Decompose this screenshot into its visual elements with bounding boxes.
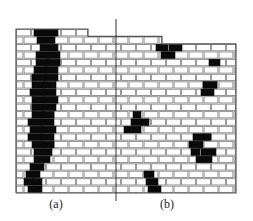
brick <box>92 179 106 185</box>
masonry-wall-diagram <box>0 0 253 221</box>
brick <box>204 67 218 73</box>
brick <box>167 134 181 140</box>
cracked-brick <box>45 74 58 81</box>
brick <box>107 179 121 185</box>
cracked-brick <box>156 44 168 51</box>
brick <box>17 30 31 36</box>
brick <box>77 104 91 110</box>
brick <box>174 186 188 192</box>
brick <box>219 171 233 177</box>
brick <box>167 149 181 155</box>
cracked-brick <box>41 119 54 126</box>
brick <box>174 52 188 58</box>
brick <box>159 112 173 118</box>
cracked-brick <box>201 89 214 96</box>
brick <box>62 134 76 140</box>
cracked-brick <box>30 164 44 171</box>
brick <box>137 45 151 51</box>
brick <box>144 141 158 147</box>
cracked-brick <box>209 59 220 66</box>
brick <box>212 134 226 140</box>
brick <box>54 112 68 118</box>
brick <box>152 74 166 80</box>
brick <box>182 164 196 170</box>
cracked-brick <box>144 171 154 178</box>
brick <box>137 89 151 95</box>
brick <box>129 67 143 73</box>
brick <box>137 149 151 155</box>
brick <box>17 171 23 177</box>
cracked-brick <box>36 59 48 66</box>
cracked-brick <box>32 82 44 89</box>
brick <box>159 141 173 147</box>
brick <box>99 112 113 118</box>
brick <box>227 134 236 140</box>
cracked-brick <box>146 178 158 185</box>
brick <box>144 127 158 133</box>
cracked-brick <box>36 52 48 59</box>
brick <box>62 30 76 36</box>
brick <box>17 127 23 133</box>
brick <box>77 59 91 65</box>
brick <box>69 37 83 43</box>
cracked-brick <box>28 134 41 141</box>
brick <box>17 37 23 43</box>
cracked-brick <box>189 141 203 148</box>
brick <box>122 149 136 155</box>
brick <box>197 45 211 51</box>
brick <box>84 82 98 88</box>
brick <box>152 134 166 140</box>
brick <box>174 156 188 162</box>
brick <box>189 67 203 73</box>
brick <box>174 67 188 73</box>
brick <box>17 186 23 192</box>
brick <box>77 164 91 170</box>
cracked-brick <box>32 104 44 111</box>
brick <box>99 141 113 147</box>
brick <box>69 127 83 133</box>
brick <box>122 89 136 95</box>
brick <box>54 37 68 43</box>
brick <box>77 30 88 36</box>
brick <box>17 104 31 110</box>
brick <box>107 149 121 155</box>
brick <box>92 104 106 110</box>
brick <box>182 45 196 51</box>
cracked-brick <box>37 37 55 44</box>
brick <box>54 141 68 147</box>
brick <box>122 59 136 65</box>
cracked-brick <box>44 104 56 111</box>
brick <box>129 171 143 177</box>
brick <box>189 186 203 192</box>
brick <box>129 186 143 192</box>
cracked-brick <box>43 111 54 118</box>
brick <box>219 67 233 73</box>
brick <box>182 104 196 110</box>
brick <box>167 89 181 95</box>
brick <box>137 74 151 80</box>
brick <box>77 134 91 140</box>
brick <box>99 82 113 88</box>
brick <box>107 104 121 110</box>
cracked-brick <box>30 89 43 96</box>
brick <box>197 119 211 125</box>
brick <box>17 112 23 118</box>
cracked-brick <box>191 149 200 156</box>
brick <box>129 37 143 43</box>
brick <box>99 67 113 73</box>
brick <box>92 134 106 140</box>
brick <box>234 171 235 177</box>
cracked-brick <box>30 126 43 133</box>
brick <box>62 119 76 125</box>
brick <box>227 89 236 95</box>
brick <box>62 104 76 110</box>
brick <box>189 82 203 88</box>
brick <box>204 97 218 103</box>
brick <box>122 134 136 140</box>
brick <box>234 141 235 147</box>
brick <box>77 149 91 155</box>
brick <box>144 97 158 103</box>
cracked-brick <box>45 96 58 103</box>
cracked-brick <box>46 67 58 74</box>
cracked-brick <box>32 111 43 118</box>
